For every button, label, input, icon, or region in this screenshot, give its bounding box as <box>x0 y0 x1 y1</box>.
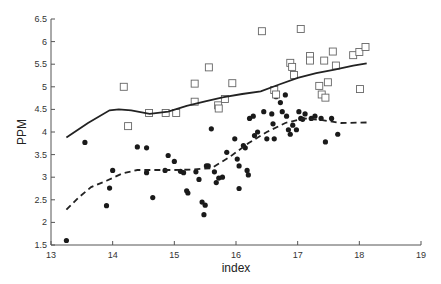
data-point-circle <box>302 111 307 116</box>
data-point-square <box>258 28 265 35</box>
y-tick-label: 6 <box>42 37 47 47</box>
data-point-circle <box>212 169 217 174</box>
data-point-square <box>229 80 236 87</box>
plot-area <box>64 25 369 243</box>
y-tick-label: 6.5 <box>34 14 47 24</box>
data-point-circle <box>236 186 241 191</box>
data-point-circle <box>278 100 283 105</box>
y-tick-label: 4.5 <box>34 104 47 114</box>
x-tick-label: 14 <box>108 250 118 260</box>
data-point-circle <box>209 126 214 131</box>
data-point-square <box>297 25 304 32</box>
data-point-circle <box>166 153 171 158</box>
data-point-square <box>362 44 369 51</box>
data-point-circle <box>290 123 295 128</box>
y-tick-label: 1.5 <box>34 240 47 250</box>
data-point-circle <box>251 114 256 119</box>
x-tick-label: 17 <box>293 250 303 260</box>
data-point-square <box>316 82 323 89</box>
data-point-circle <box>323 139 328 144</box>
data-point-circle <box>283 92 288 97</box>
data-point-circle <box>286 127 291 132</box>
data-point-circle <box>270 121 275 126</box>
data-point-circle <box>296 109 301 114</box>
data-point-circle <box>294 127 299 132</box>
x-tick-label: 13 <box>46 250 56 260</box>
data-point-circle <box>150 195 155 200</box>
data-point-circle <box>312 114 317 119</box>
data-point-circle <box>269 111 274 116</box>
data-point-circle <box>235 157 240 162</box>
x-tick-label: 18 <box>354 250 364 260</box>
data-point-square <box>125 123 132 130</box>
y-tick-label: 2.5 <box>34 195 47 205</box>
data-point-circle <box>203 203 208 208</box>
data-point-circle <box>236 163 241 168</box>
data-point-circle <box>144 145 149 150</box>
y-tick-label: 5 <box>42 82 47 92</box>
y-tick-label: 4 <box>42 127 47 137</box>
lower-trend-line <box>66 118 366 209</box>
data-point-square <box>324 79 331 86</box>
data-point-circle <box>220 175 225 180</box>
x-tick-label: 19 <box>416 250 426 260</box>
data-point-circle <box>329 116 334 121</box>
data-point-circle <box>181 170 186 175</box>
data-point-square <box>191 80 198 87</box>
data-point-circle <box>224 150 229 155</box>
data-point-circle <box>255 129 260 134</box>
data-point-circle <box>64 238 69 243</box>
data-point-circle <box>264 136 269 141</box>
data-point-circle <box>104 203 109 208</box>
data-point-circle <box>284 114 289 119</box>
data-point-circle <box>196 177 201 182</box>
y-tick-label: 5.5 <box>34 59 47 69</box>
data-point-circle <box>245 168 250 173</box>
x-axis-label: index <box>222 261 251 275</box>
data-point-circle <box>107 185 112 190</box>
data-point-circle <box>246 172 251 177</box>
data-point-circle <box>280 109 285 114</box>
x-axis: 13141516171819 <box>46 241 426 260</box>
data-point-square <box>329 48 336 55</box>
data-point-square <box>356 86 363 93</box>
scatter-chart: 1.522.533.544.555.566.5 13141516171819 i… <box>0 0 441 284</box>
data-point-square <box>321 57 328 64</box>
data-point-circle <box>288 132 293 137</box>
data-point-square <box>289 63 296 70</box>
y-axis: 1.522.533.544.555.566.5 <box>34 14 55 250</box>
y-tick-label: 3.5 <box>34 150 47 160</box>
data-point-circle <box>110 168 115 173</box>
data-point-circle <box>232 136 237 141</box>
x-tick-label: 16 <box>231 250 241 260</box>
data-point-circle <box>272 136 277 141</box>
y-tick-label: 2 <box>42 217 47 227</box>
data-point-square <box>215 105 222 112</box>
data-point-circle <box>172 159 177 164</box>
data-point-circle <box>214 180 219 185</box>
data-point-circle <box>82 140 87 145</box>
x-tick-label: 15 <box>169 250 179 260</box>
data-point-circle <box>185 190 190 195</box>
data-point-square <box>273 91 280 98</box>
data-point-square <box>205 64 212 71</box>
data-point-circle <box>201 212 206 217</box>
data-point-square <box>322 94 329 101</box>
y-tick-label: 3 <box>42 172 47 182</box>
y-axis-label: PPM <box>15 119 29 145</box>
data-point-square <box>307 57 314 64</box>
data-point-square <box>120 83 127 90</box>
data-point-circle <box>335 132 340 137</box>
data-point-circle <box>135 144 140 149</box>
data-point-circle <box>261 109 266 114</box>
